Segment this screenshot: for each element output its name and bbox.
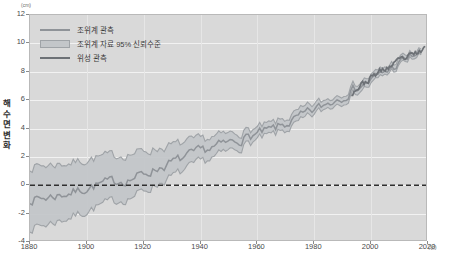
- chart-legend: 조위계 관측 조위계 자료 95% 신뢰수준 위성 관측: [40, 23, 230, 65]
- legend-label-satellite: 위성 관측: [77, 54, 107, 63]
- y-axis-tick-mark: [26, 42, 29, 43]
- y-axis-tick-label: 2: [1, 152, 25, 160]
- y-axis-tick-label: 4: [1, 124, 25, 132]
- y-axis-tick-label: -2: [1, 209, 25, 217]
- y-axis-tick-label: 6: [1, 95, 25, 103]
- legend-label-confidence-band: 조위계 자료 95% 신뢰수준: [77, 40, 161, 49]
- confidence-band-upper-edge: [30, 48, 421, 173]
- x-axis-tick-mark: [313, 241, 314, 244]
- legend-line-dark-swatch-icon: [40, 57, 70, 60]
- x-axis-tick-mark: [256, 241, 257, 244]
- x-axis-tick-label: 1880: [21, 243, 38, 251]
- y-axis-tick-mark: [26, 14, 29, 15]
- confidence-band: [30, 48, 421, 233]
- y-axis-tick-label: 10: [1, 38, 25, 46]
- x-axis-tick-mark: [86, 241, 87, 244]
- y-axis-tick-mark: [26, 213, 29, 214]
- x-axis-tick-label: 1980: [305, 243, 322, 251]
- x-axis-tick-label: 2000: [362, 243, 379, 251]
- x-axis-tick-mark: [200, 241, 201, 244]
- sea-level-chart: (cm) 해수면 변화 조위계 관측 조위계 자료 95% 신뢰수준: [0, 0, 456, 270]
- y-axis-tick-label: 0: [1, 180, 25, 188]
- x-axis-tick-label: 1900: [78, 243, 95, 251]
- plot-panel: 조위계 관측 조위계 자료 95% 신뢰수준 위성 관측: [29, 14, 427, 241]
- legend-band-swatch-icon: [40, 40, 70, 48]
- legend-item-satellite: 위성 관측: [40, 52, 107, 64]
- y-axis-tick-mark: [26, 99, 29, 100]
- y-axis-tick-mark: [26, 128, 29, 129]
- y-axis-tick-label: 12: [1, 10, 25, 18]
- y-axis-tick-mark: [26, 156, 29, 157]
- x-axis-tick-label: 1920: [134, 243, 151, 251]
- x-axis-unit-label: (년): [428, 243, 437, 251]
- legend-label-tide-gauge: 조위계 관측: [77, 26, 114, 35]
- x-axis-tick-mark: [143, 241, 144, 244]
- x-axis-tick-mark: [29, 241, 30, 244]
- y-axis-tick-mark: [26, 184, 29, 185]
- y-axis-tick-mark: [26, 71, 29, 72]
- legend-item-tide-gauge: 조위계 관측: [40, 24, 114, 36]
- x-axis-tick-label: 1960: [248, 243, 265, 251]
- y-axis-tick-label: 8: [1, 67, 25, 75]
- y-axis-unit-label: (cm): [21, 2, 31, 8]
- x-axis-tick-mark: [370, 241, 371, 244]
- x-axis-tick-label: 1940: [191, 243, 208, 251]
- legend-line-swatch-icon: [40, 29, 70, 31]
- legend-item-confidence-band: 조위계 자료 95% 신뢰수준: [40, 38, 161, 50]
